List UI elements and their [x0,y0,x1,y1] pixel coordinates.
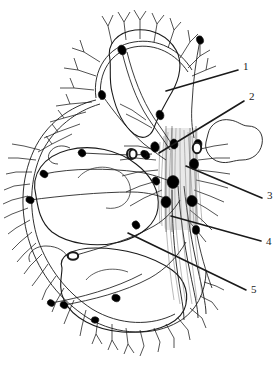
left-mid-nub-outline [48,146,70,164]
organ-outline-group [29,30,262,333]
lymph-node-filled [39,169,50,179]
lymph-node-open [193,143,201,153]
upper-to-hilum-vessel-a [122,52,170,150]
lymph-node-filled [155,109,165,121]
lymph-node-filled [192,226,199,235]
lymphatic-diagram-svg: 12345 [0,0,280,365]
lymph-node-filled [150,141,160,153]
middle-lobe-outline [35,148,159,245]
accessory-lobe-outline [206,120,263,163]
label-number-3: 3 [267,189,273,201]
lower-right-connector [196,230,212,288]
upper-arc-vessel-inner [100,46,188,100]
lymph-node-filled [111,293,121,303]
label-number-group: 12345 [243,60,273,295]
label-number-1: 1 [243,60,249,72]
lymph-node-filled [167,176,179,189]
lower-arc-vessel-b [51,274,142,303]
middle-lobe-inner-contour [78,167,130,208]
label-number-2: 2 [249,90,255,102]
lymph-node-filled [77,148,88,159]
lower-lobe-inner-contour [86,269,128,280]
lower-lobe-outline [61,248,187,332]
lymph-node-open [129,149,136,158]
label-number-4: 4 [266,235,272,247]
upper-right-branch [192,40,200,138]
lymph-node-filled [116,44,127,56]
left-lower-vessel [73,200,180,256]
lymph-node-filled [97,90,106,101]
leader-line-5 [128,233,246,290]
lymph-node-filled [195,35,204,45]
left-arc-vessel-inner [32,104,175,322]
anatomical-figure: 12345 [0,0,280,365]
lymph-node-filled [91,316,100,324]
label-number-5: 5 [251,283,257,295]
lymph-node-open [68,252,78,260]
lymph-node-filled [161,196,171,208]
lymph-node-filled [131,219,142,230]
